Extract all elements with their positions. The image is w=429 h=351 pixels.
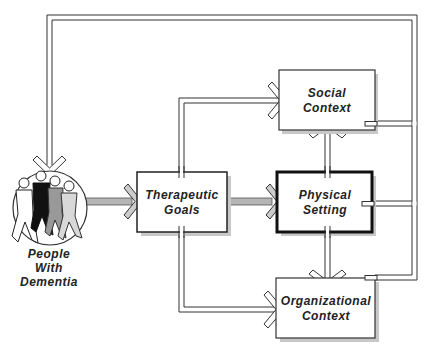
connector-goals-to-social (179, 98, 279, 172)
people-label-line3: Dementia (20, 275, 78, 289)
node-social-context (279, 70, 375, 130)
node-therapeutic-goals (137, 172, 227, 232)
people-label-line2: With (35, 261, 63, 275)
feedback-loop-connector (47, 15, 417, 280)
conceptual-model-diagram: People With Dementia Social Context Ther… (0, 0, 429, 351)
social-label-line1: Social (308, 86, 347, 100)
node-physical-setting (277, 172, 372, 232)
people-with-dementia-icon (12, 171, 87, 245)
node-organizational-context (276, 278, 375, 338)
goals-label-line2: Goals (164, 203, 200, 217)
physical-label-line2: Setting (303, 203, 347, 217)
arrow-goals-to-physical (224, 198, 272, 205)
connector-goals-to-organizational (179, 232, 276, 312)
connector-physical-to-social (325, 130, 330, 172)
people-label-line1: People (28, 247, 70, 261)
arrow-people-to-goals (82, 198, 132, 205)
connector-physical-to-organizational (325, 232, 330, 278)
organizational-label-line1: Organizational (281, 294, 372, 308)
social-label-line2: Context (303, 101, 352, 115)
feedback-loop-fill (413, 122, 417, 206)
organizational-label-line2: Context (302, 309, 351, 323)
goals-label-line1: Therapeutic (145, 188, 219, 202)
physical-label-line1: Physical (299, 188, 352, 202)
